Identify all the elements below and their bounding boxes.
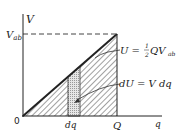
svg-text:1: 1 <box>145 42 149 49</box>
strip-energy-label: dU = V dq <box>119 78 172 89</box>
dq-strip <box>68 66 80 116</box>
svg-text:QV: QV <box>150 45 167 56</box>
x-axis-label: q <box>155 119 161 129</box>
origin-label: 0 <box>14 116 20 126</box>
total-energy-label: U = 1 2 QV ab <box>120 42 176 58</box>
y-axis-label: V <box>26 13 35 26</box>
energy-capacitor-diagram: V Vab 0 dq Q q U = 1 2 QV ab dU = V dq <box>0 0 181 132</box>
svg-text:ab: ab <box>168 50 176 57</box>
q-tick-label: Q <box>113 120 121 131</box>
svg-text:2: 2 <box>144 51 149 58</box>
vab-label: Vab <box>6 29 22 42</box>
svg-text:U =: U = <box>120 45 140 56</box>
dq-label: dq <box>65 120 77 130</box>
